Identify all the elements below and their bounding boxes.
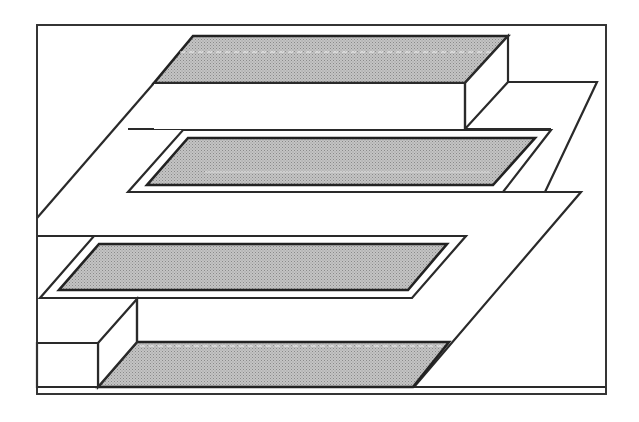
lower-trench-floor bbox=[59, 244, 447, 290]
lower-trench bbox=[40, 236, 466, 298]
bottom-block-floor bbox=[98, 342, 449, 387]
top-block bbox=[154, 36, 508, 129]
serpentine-structure-diagram bbox=[0, 0, 639, 422]
upper-trench bbox=[128, 130, 551, 192]
top-block-front-face bbox=[154, 83, 465, 129]
upper-trench-floor bbox=[147, 138, 535, 185]
top-block-top-face bbox=[154, 36, 508, 83]
bottom-block-front-face bbox=[37, 343, 98, 387]
